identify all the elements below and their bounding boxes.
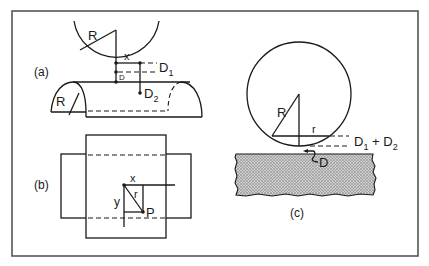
cylinder-right-arch [181,82,202,117]
sphere-radius-label: R [277,105,286,120]
point-p [141,210,145,214]
panel-a-label: (a) [34,65,49,79]
point-sphere-bottom [114,70,118,74]
top-radius-line [80,30,116,50]
panel-a: (a) R x D D1 D2 [34,21,202,117]
cylinder-radius-label: R [56,94,65,109]
cylinder-right-hidden-arch [168,82,181,111]
chord-r-label: r [312,123,316,135]
d1-label: D1 [159,60,173,78]
x-label: x [124,50,130,62]
panel-c: R r D1 + D2 D (c) [235,42,398,220]
origin-point [122,183,126,187]
tall-rectangle-fill [86,135,166,238]
r-label-b: r [134,188,138,200]
d-label-c: D [319,155,328,170]
x-label-b: x [130,172,136,184]
point-d2 [138,91,142,95]
d-small-label: D [119,73,125,82]
top-radius-label: R [88,28,97,43]
point-contact-edge [138,61,142,65]
panel-b: (b) x y r P [34,135,191,238]
arrowhead-icon [303,149,308,153]
panel-c-label: (c) [290,206,304,220]
point-x-start [114,61,118,65]
stippled-surface [235,154,376,196]
d2-label: D2 [144,86,158,104]
contact-geometry-diagram: (a) R x D D1 D2 [0,0,429,266]
panel-b-label: (b) [34,178,49,192]
d1-plus-d2-label: D1 + D2 [354,134,398,152]
y-label-b: y [114,195,120,209]
p-label-b: P [146,205,155,220]
